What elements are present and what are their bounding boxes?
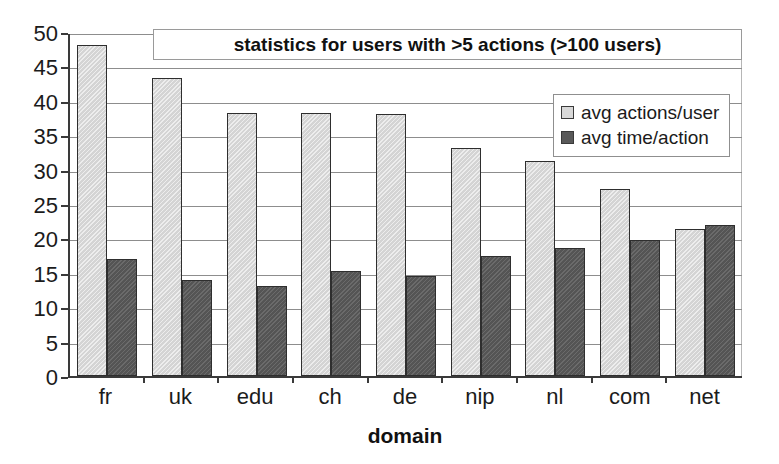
bar-group [593,34,668,376]
y-tick-mark [61,136,68,138]
legend-label: avg actions/user [581,103,719,122]
x-tick-mark [591,376,593,383]
bar-chart-figure: 50454035302520151050 statistics for user… [0,0,779,464]
y-tick-label: 25 [12,195,58,217]
y-tick-label: 20 [12,229,58,251]
bar-ch-time [331,271,361,376]
y-tick-label: 35 [12,126,58,148]
legend-item-time-per-action: avg time/action [561,125,719,150]
legend-swatch-icon [561,131,574,144]
x-tick-label-ch: ch [293,386,368,408]
bar-de-time [406,276,436,376]
bar-ch-actions [301,113,331,377]
bar-group [219,34,294,376]
x-tick-label-nip: nip [442,386,517,408]
y-tick-mark [61,239,68,241]
y-tick-label: 50 [12,23,58,45]
y-tick-mark [61,308,68,310]
bar-uk-time [182,280,212,376]
x-tick-label-com: com [592,386,667,408]
x-axis: frukeduchdenipnlcomnet [68,386,742,408]
plot-area [68,34,742,378]
legend-swatch-icon [561,106,574,119]
bar-group [369,34,444,376]
x-axis-title: domain [68,424,742,448]
x-tick-label-uk: uk [143,386,218,408]
x-tick-label-net: net [667,386,742,408]
x-tick-mark [441,376,443,383]
x-tick-label-nl: nl [517,386,592,408]
x-tick-mark [516,376,518,383]
chart-title: statistics for users with >5 actions (>1… [153,29,742,60]
bar-group [145,34,220,376]
x-tick-mark [143,376,145,383]
bar-nl-time [555,248,585,376]
x-tick-label-de: de [368,386,443,408]
y-tick-label: 15 [12,264,58,286]
y-tick-mark [61,33,68,35]
x-tick-mark [367,376,369,383]
bar-net-time [705,225,735,376]
bar-de-actions [376,114,406,376]
bars-layer [70,34,742,376]
y-tick-mark [61,274,68,276]
bar-edu-time [257,286,287,376]
chart-legend: avg actions/useravg time/action [553,94,730,157]
x-tick-mark [292,376,294,383]
y-tick-mark [61,205,68,207]
x-tick-mark [217,376,219,383]
legend-label: avg time/action [581,128,709,147]
bar-net-actions [675,229,705,376]
y-tick-label: 45 [12,57,58,79]
x-tick-mark [665,376,667,383]
y-tick-mark [61,102,68,104]
bar-group [443,34,518,376]
y-tick-mark [61,67,68,69]
bar-com-actions [600,189,630,376]
legend-item-actions-per-user: avg actions/user [561,100,719,125]
x-tick-label-fr: fr [68,386,143,408]
bar-edu-actions [227,113,257,377]
bar-nip-time [481,256,511,376]
bar-group [294,34,369,376]
bar-fr-time [107,259,137,376]
y-tick-mark [61,171,68,173]
y-tick-label: 10 [12,298,58,320]
y-tick-label: 5 [12,333,58,355]
bar-nl-actions [525,161,555,376]
y-tick-label: 30 [12,161,58,183]
y-tick-label: 40 [12,92,58,114]
bar-fr-actions [77,45,107,376]
bar-nip-actions [451,148,481,376]
bar-uk-actions [152,78,182,376]
x-tick-label-edu: edu [218,386,293,408]
y-axis: 50454035302520151050 [0,34,58,378]
bar-com-time [630,240,660,376]
bar-group [70,34,145,376]
y-tick-mark [61,377,68,379]
y-tick-mark [61,343,68,345]
bar-group [518,34,593,376]
y-tick-label: 0 [12,367,58,389]
bar-group [667,34,742,376]
